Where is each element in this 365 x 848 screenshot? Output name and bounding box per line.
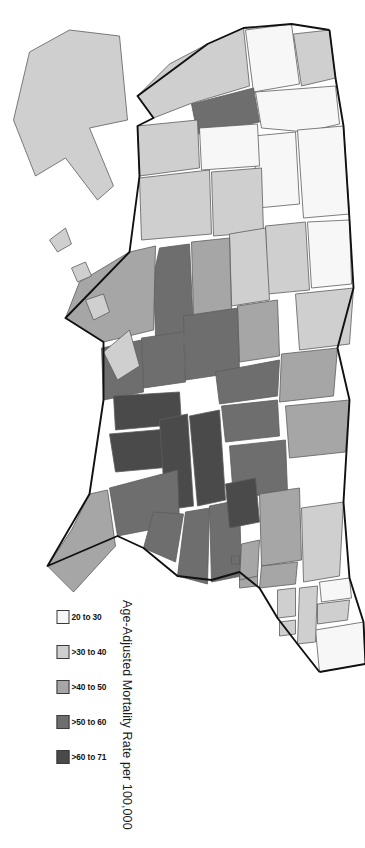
state-ma: [297, 586, 317, 644]
us-choropleth-map: [0, 0, 365, 848]
state-ar: [141, 332, 185, 388]
legend-swatch: [56, 610, 69, 624]
rotated-map-stage: Age-Adjusted Mortality Rate per 100,000 …: [0, 0, 365, 848]
legend-item: 20 to 30: [56, 600, 113, 633]
legend-item-label: >50 to 60: [71, 717, 113, 727]
legend-swatch: [56, 680, 69, 694]
state-wa: [293, 30, 335, 86]
legend-item-label: >30 to 40: [71, 647, 113, 657]
state-nj: [259, 562, 297, 588]
state-sd: [265, 222, 309, 294]
state-hi: [49, 228, 71, 252]
state-vt: [319, 578, 351, 602]
state-pa: [259, 488, 301, 566]
state-or: [245, 24, 299, 92]
state-ia: [237, 300, 279, 362]
state-id: [255, 86, 339, 132]
legend-item: >40 to 50: [56, 670, 113, 703]
state-mt: [297, 126, 349, 218]
state-ky: [189, 410, 225, 506]
state-nd: [307, 220, 351, 288]
legend-swatch: [56, 750, 69, 764]
legend-title: Age-Adjusted Mortality Rate per 100,000: [119, 600, 133, 840]
state-nm: [139, 170, 211, 240]
state-in: [221, 400, 279, 442]
state-polygons: [13, 24, 365, 672]
state-ne: [229, 228, 269, 306]
legend-swatch: [56, 645, 69, 659]
state-ct: [277, 588, 295, 618]
state-wi: [279, 348, 337, 402]
map-legend: Age-Adjusted Mortality Rate per 100,000 …: [56, 600, 133, 840]
state-dc: [231, 556, 239, 564]
legend-item: >60 to 71: [56, 740, 113, 773]
state-co: [211, 168, 263, 236]
legend-item-label: 20 to 30: [71, 612, 113, 622]
state-ut: [199, 124, 259, 170]
legend-item: >30 to 40: [56, 635, 113, 668]
legend-items: 20 to 30>30 to 40>40 to 50>50 to 60>60 t…: [56, 600, 113, 840]
legend-item-label: >40 to 50: [71, 682, 113, 692]
state-mi: [285, 400, 349, 458]
legend-item-label: >60 to 71: [71, 752, 113, 762]
mortality-choropleth-figure: Age-Adjusted Mortality Rate per 100,000 …: [0, 0, 365, 848]
state-wv: [225, 478, 259, 528]
state-ny: [301, 502, 343, 582]
state-az: [137, 120, 199, 176]
state-tx: [65, 246, 155, 342]
state-nh: [317, 600, 349, 624]
state-ks: [191, 238, 231, 316]
legend-item: >50 to 60: [56, 705, 113, 738]
legend-swatch: [56, 715, 69, 729]
state-ak: [13, 30, 127, 200]
